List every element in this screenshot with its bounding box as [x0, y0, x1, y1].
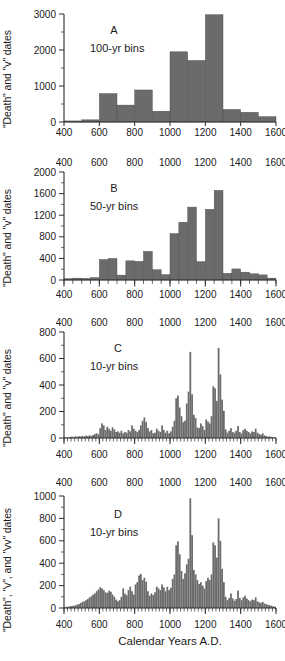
histogram-bar [197, 427, 199, 438]
y-tick-label: 1000 [34, 81, 57, 92]
histogram-bar [144, 578, 146, 608]
histogram-bar [83, 601, 85, 608]
histogram-bar [223, 109, 241, 122]
histogram-bar [128, 430, 130, 438]
histogram-bar [262, 602, 264, 608]
histogram-bar [133, 429, 135, 438]
histogram-bar [205, 209, 214, 280]
histogram-bar [214, 545, 216, 608]
panel-a: "Death" and "v" dates 010002000300040060… [0, 0, 285, 158]
histogram-bar [258, 275, 267, 280]
histogram-bar [142, 580, 144, 608]
histogram-bar [218, 518, 220, 608]
y-tick-label: 400 [39, 558, 56, 569]
histogram-bar [128, 590, 130, 608]
histogram-bar [246, 431, 248, 438]
histogram-bar [99, 94, 117, 122]
histogram-bar [96, 433, 98, 438]
histogram-bar [112, 595, 114, 608]
histogram-bar [117, 431, 119, 438]
histogram-bar [149, 596, 151, 608]
panel-d: "Death", "v", and "vv" dates 02004006008… [0, 478, 285, 661]
histogram-bar [152, 270, 161, 280]
histogram-bar [91, 596, 93, 608]
histogram-bar [239, 598, 241, 608]
panel-bins-label: 50-yr bins [90, 200, 139, 212]
histogram-bar [235, 431, 237, 438]
histogram-bar [163, 430, 165, 438]
x-tick-label-echo: 1600 [265, 478, 285, 488]
histogram-bar [119, 600, 121, 608]
x-tick-label-echo: 400 [56, 158, 73, 168]
histogram-bar [147, 591, 149, 608]
histogram-bar [108, 591, 110, 608]
histogram-bar [181, 416, 183, 438]
histogram-bar [191, 535, 193, 608]
histogram-bar [264, 604, 266, 608]
histogram-bar [165, 433, 167, 438]
x-tick-label: 600 [91, 449, 108, 460]
histogram-bar [228, 431, 230, 438]
histogram-bar [188, 207, 197, 280]
histogram-bar [152, 595, 154, 608]
histogram-bar [115, 432, 117, 438]
x-tick-label: 800 [126, 449, 143, 460]
histogram-bar [119, 433, 121, 438]
histogram-bar [225, 597, 227, 608]
histogram-bar [140, 574, 142, 608]
histogram-bar [117, 105, 135, 122]
histogram-bar [257, 601, 259, 608]
histogram-bar [170, 234, 179, 280]
histogram-bar [255, 597, 257, 608]
histogram-bar [197, 580, 199, 608]
x-tick-label: 800 [126, 127, 143, 138]
histogram-bar [211, 416, 213, 438]
histogram-bar [219, 541, 221, 608]
histogram-bar [188, 559, 190, 608]
histogram-bar [248, 432, 250, 438]
x-tick-label-echo: 800 [126, 158, 143, 168]
histogram-bar [258, 602, 260, 608]
histogram-bar [142, 421, 144, 438]
histogram-bar [207, 421, 209, 438]
histogram-bar [170, 588, 172, 608]
histogram-bar [188, 60, 206, 122]
histogram-bar [221, 569, 223, 608]
histogram-bar [110, 431, 112, 438]
histogram-bar [195, 574, 197, 608]
histogram-bar [193, 570, 195, 608]
histogram-bar [212, 386, 214, 438]
histogram-bar [193, 415, 195, 438]
histogram-bar [177, 541, 179, 608]
histogram-bar [117, 601, 119, 608]
histogram-bar [129, 587, 131, 608]
histogram-bar [131, 425, 133, 438]
panel-a-svg: 01000200030004006008001000120014001600A1… [18, 0, 285, 158]
histogram-bar [230, 593, 232, 608]
panel-c-plot: 02004006008004006008001000120014001600C1… [18, 318, 285, 478]
histogram-bar [214, 190, 223, 280]
histogram-bar [144, 417, 146, 438]
histogram-bar [166, 431, 168, 438]
y-tick-label: 1600 [34, 188, 57, 199]
histogram-bar [198, 428, 200, 438]
histogram-bar [209, 580, 211, 608]
x-tick-label: 1200 [194, 127, 217, 138]
x-tick-label: 1000 [159, 619, 182, 630]
histogram-bar [223, 411, 225, 438]
histogram-bar [232, 432, 234, 438]
histogram-bar [221, 400, 223, 438]
histogram-bar [135, 431, 137, 438]
histogram-bar [87, 599, 89, 608]
x-tick-label: 1600 [265, 619, 285, 630]
x-tick-label: 1200 [194, 449, 217, 460]
x-tick-label-echo: 1000 [159, 478, 182, 488]
histogram-bar [101, 588, 103, 608]
histogram-bar [234, 433, 236, 438]
histogram-bar [136, 432, 138, 438]
x-tick-label-echo: 1600 [265, 158, 285, 168]
histogram-bar [172, 579, 174, 608]
x-tick-label-echo: 1400 [230, 158, 253, 168]
histogram-bar [246, 598, 248, 608]
histogram-bar [244, 596, 246, 608]
